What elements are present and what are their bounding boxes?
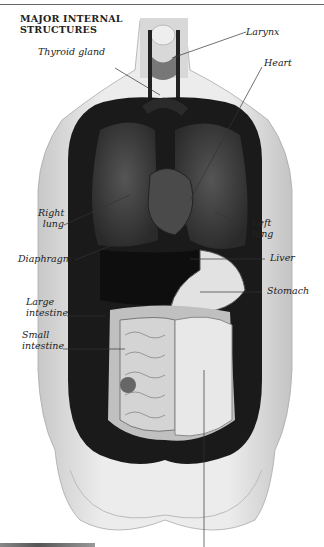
right-lung-shape: [92, 123, 158, 247]
label-heart: Heart: [264, 58, 292, 69]
label-diaphragm: Diaphragm: [18, 254, 72, 265]
label-left-lung-line2: lung: [252, 229, 273, 240]
small-intestine-shape: [120, 318, 175, 432]
label-small-intestine-line2: intestine: [22, 341, 64, 352]
label-thyroid-gland: Thyroid gland: [38, 47, 105, 58]
label-large-intestine-line1: Large: [26, 297, 68, 308]
label-liver: Liver: [270, 253, 295, 264]
label-small-intestine: Small intestine: [22, 330, 64, 351]
label-left-lung-line1: Left: [252, 218, 273, 229]
larynx-shape: [151, 25, 175, 45]
label-right-lung-line2: lung: [38, 219, 64, 230]
bottom-image-strip: [0, 543, 95, 547]
label-small-intestine-line1: Small: [22, 330, 64, 341]
label-larynx: Larynx: [246, 27, 279, 38]
label-stomach: Stomach: [267, 286, 309, 297]
torso-illustration: [0, 0, 324, 547]
label-large-intestine: Large intestine: [26, 297, 68, 318]
label-left-lung: Left lung: [252, 218, 273, 239]
label-right-lung: Right lung: [38, 208, 64, 229]
label-large-intestine-line2: intestine: [26, 308, 68, 319]
label-right-lung-line1: Right: [38, 208, 64, 219]
omentum-shape: [175, 317, 232, 436]
cecum-shape: [120, 377, 136, 393]
